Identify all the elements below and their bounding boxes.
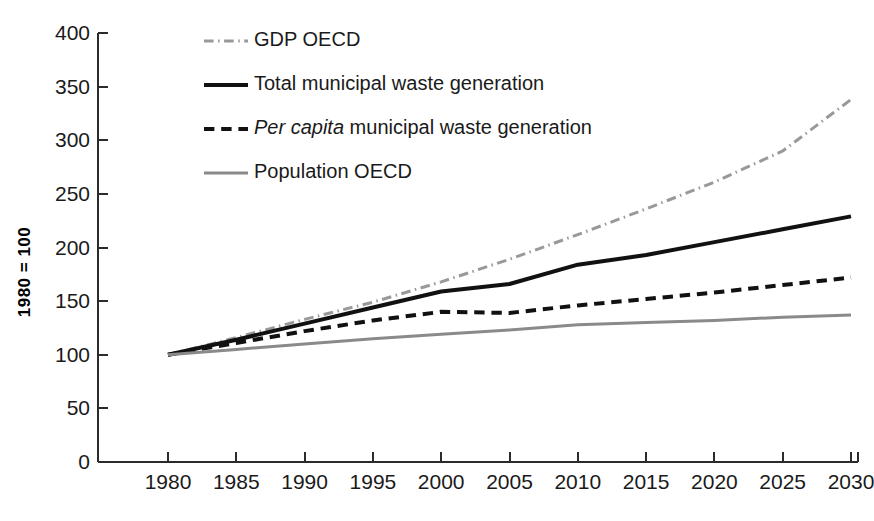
y-tick-label: 300	[55, 128, 90, 151]
y-tick-label: 50	[67, 396, 90, 419]
x-tick-label: 1990	[281, 470, 328, 493]
legend-label: Total municipal waste generation	[254, 72, 544, 94]
chart-legend: GDP OECDTotal municipal waste generation…	[204, 28, 592, 182]
x-tick-label: 2000	[418, 470, 465, 493]
series-line	[168, 315, 851, 355]
y-tick-label: 150	[55, 289, 90, 312]
y-tick-label: 100	[55, 343, 90, 366]
legend-label: Population OECD	[254, 160, 412, 182]
x-tick-label: 2010	[554, 470, 601, 493]
y-tick-label: 250	[55, 182, 90, 205]
series-line	[168, 278, 851, 355]
legend-label: Per capita municipal waste generation	[254, 116, 592, 138]
line-chart: 050100150200250300350400 198019851990199…	[0, 0, 874, 521]
x-tick-label: 2005	[486, 470, 533, 493]
y-tick-label: 400	[55, 21, 90, 44]
legend-label: GDP OECD	[254, 28, 360, 50]
y-tick-label: 0	[78, 450, 90, 473]
chart-container: 050100150200250300350400 198019851990199…	[0, 0, 874, 521]
x-tick-label: 2025	[759, 470, 806, 493]
x-tick-label: 1985	[213, 470, 260, 493]
y-tick-label: 200	[55, 236, 90, 259]
x-tick-label: 2030	[828, 470, 874, 493]
x-tick-label: 2020	[691, 470, 738, 493]
x-axis-ticks: 1980198519901995200020052010201520202025…	[145, 452, 874, 493]
y-axis-ticks: 050100150200250300350400	[55, 21, 108, 473]
x-tick-label: 1995	[350, 470, 397, 493]
x-tick-label: 2015	[623, 470, 670, 493]
x-tick-label: 1980	[145, 470, 192, 493]
y-tick-label: 350	[55, 75, 90, 98]
y-axis-title: 1980 = 100	[15, 227, 34, 318]
series-line	[168, 216, 851, 354]
